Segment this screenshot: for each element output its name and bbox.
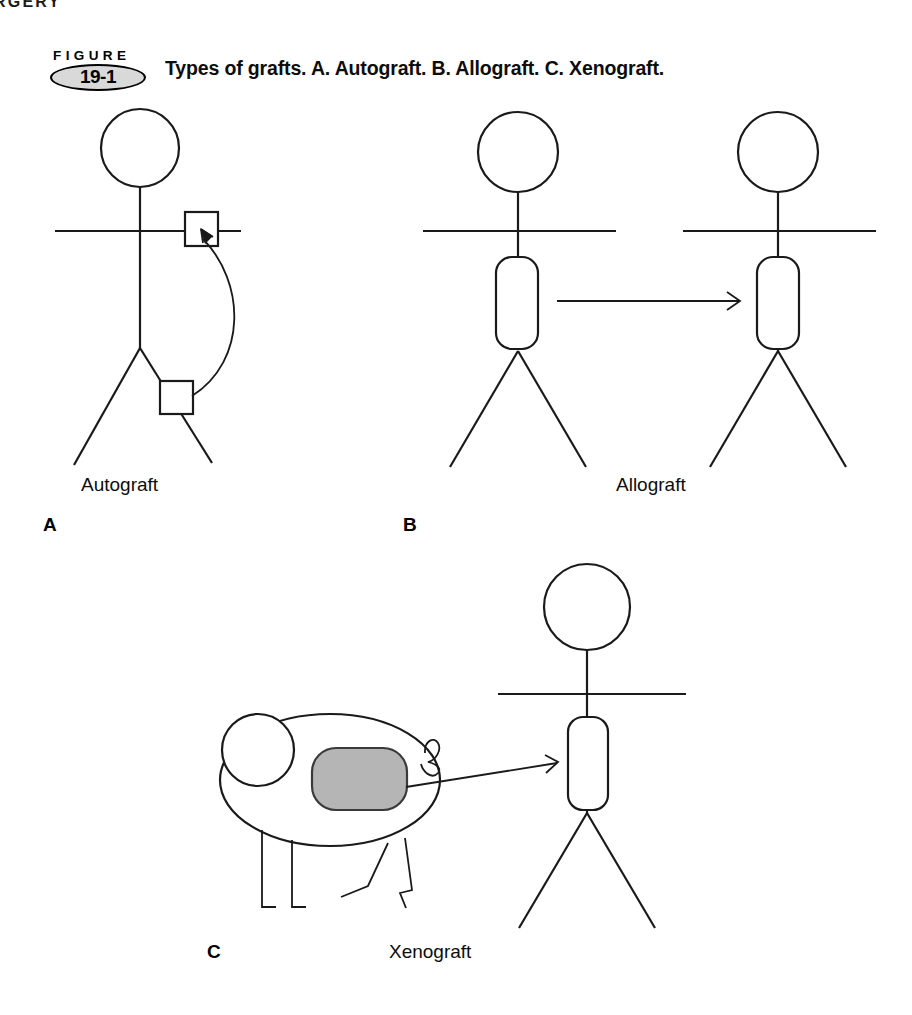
head-circle	[544, 564, 630, 650]
panel-b-allograft	[423, 112, 876, 467]
panel-b-recipient-figure	[683, 112, 876, 467]
leg-left-line	[74, 348, 140, 465]
panel-label-xenograft: Xenograft	[389, 941, 471, 963]
panel-b-donor-figure	[423, 112, 616, 467]
panel-c-xenograft	[220, 564, 686, 928]
panel-letter-c: C	[207, 941, 221, 963]
pig-organ-rounded-rect	[312, 748, 407, 810]
transfer-arrow-curve	[192, 239, 234, 396]
leg-right-line	[778, 351, 846, 467]
organ-rounded-rect	[568, 717, 608, 810]
graft-site-square-donor	[160, 381, 193, 414]
figure-page: RGERY FIGURE 19-1 Types of grafts. A. Au…	[0, 0, 912, 1015]
panel-c-pig-figure	[220, 714, 440, 908]
head-circle	[738, 112, 818, 192]
organ-rounded-rect	[496, 257, 538, 349]
pig-leg-front-left	[262, 830, 276, 907]
panel-label-autograft: Autograft	[81, 474, 158, 496]
panel-c-recipient-figure	[498, 564, 686, 928]
pig-leg-hind-right	[400, 838, 412, 908]
panel-a-autograft	[55, 109, 241, 465]
pig-leg-hind-left	[341, 843, 388, 897]
leg-right-line	[518, 351, 586, 467]
leg-right-line	[587, 813, 655, 928]
pig-leg-front-right	[292, 840, 306, 907]
panel-label-allograft: Allograft	[616, 474, 686, 496]
figure-artwork: .ln { stroke: #1a1a1a; stroke-width: 2.2…	[0, 0, 912, 1015]
panel-a-stick-figure	[55, 109, 241, 465]
leg-left-line	[450, 351, 518, 467]
panel-letter-a: A	[43, 514, 57, 536]
head-circle	[478, 112, 558, 192]
leg-left-line	[519, 813, 587, 928]
leg-left-line	[710, 351, 778, 467]
pig-head-circle	[222, 714, 294, 786]
organ-rounded-rect	[757, 257, 799, 349]
panel-letter-b: B	[403, 514, 417, 536]
head-circle	[101, 109, 179, 187]
